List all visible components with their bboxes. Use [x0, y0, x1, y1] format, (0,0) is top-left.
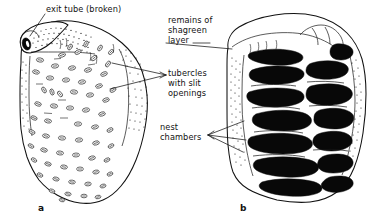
panel-a-caption: a	[38, 203, 44, 213]
label-shagreen-line3: layer	[168, 35, 190, 45]
figure-svg: a	[0, 0, 384, 223]
nest-chamber	[248, 133, 313, 154]
label-shagreen-line1: remains of	[168, 15, 213, 25]
nest-chamber	[247, 88, 304, 107]
nest-chamber	[306, 84, 352, 105]
label-tubercles-line2: with slit	[168, 78, 202, 88]
nest-chamber	[252, 110, 311, 131]
label-tubercles-line3: openings	[168, 88, 206, 98]
label-exit-tube: exit tube (broken)	[46, 4, 121, 14]
panel-b-specimen: b	[227, 14, 366, 213]
nest-chamber	[317, 154, 353, 173]
label-tubercles-line1: tubercles	[168, 68, 207, 78]
label-shagreen-line2: shagreen	[168, 25, 207, 35]
nest-chamber	[249, 66, 304, 84]
nest-chamber	[313, 131, 352, 151]
nest-chamber	[314, 108, 354, 129]
label-nest-line1: nest	[160, 122, 179, 132]
nest-chamber	[330, 44, 353, 60]
label-nest-line2: chambers	[160, 132, 201, 142]
figure-plate: a	[0, 0, 384, 223]
nest-chamber	[306, 61, 348, 80]
panel-b-caption: b	[240, 203, 247, 213]
panel-a-specimen: a	[20, 21, 148, 213]
